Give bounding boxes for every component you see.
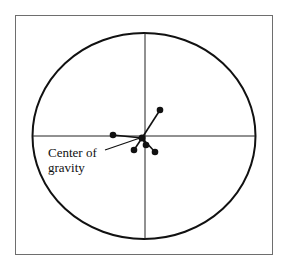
data-point <box>157 107 164 114</box>
data-point <box>110 132 117 139</box>
data-point <box>131 147 138 154</box>
spokes <box>113 110 160 152</box>
data-points <box>110 107 164 156</box>
target-diagram <box>0 0 287 270</box>
data-point <box>143 142 150 149</box>
center-of-gravity-marker <box>139 135 146 142</box>
data-point <box>152 149 159 156</box>
center-of-gravity-label: Center of gravity <box>48 145 97 175</box>
